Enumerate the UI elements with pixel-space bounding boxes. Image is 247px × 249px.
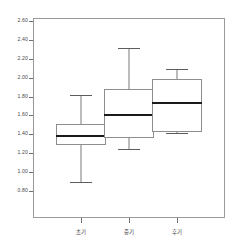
x-axis-label-1: 초기 xyxy=(76,228,86,236)
y-tick-mark xyxy=(29,115,33,116)
y-axis: 2.602.402.202.001.801.601.401.201.000.80 xyxy=(0,0,33,249)
lower-whisker xyxy=(81,145,82,182)
upper-whisker xyxy=(81,95,82,124)
y-tick-label: 1.80 xyxy=(18,93,29,99)
iqr-box xyxy=(152,79,202,132)
y-tick-mark xyxy=(29,21,33,22)
y-tick-mark xyxy=(29,191,33,192)
lower-whisker xyxy=(129,138,130,148)
y-tick-label: 2.60 xyxy=(18,17,29,23)
x-axis-label-3: 후기 xyxy=(172,228,182,236)
y-tick-mark xyxy=(29,134,33,135)
y-tick-mark xyxy=(29,59,33,60)
x-axis-tick xyxy=(177,218,178,223)
y-tick-label: 2.00 xyxy=(18,74,29,80)
median-line xyxy=(152,102,202,104)
y-tick-label: 2.20 xyxy=(18,55,29,61)
y-tick-mark xyxy=(29,78,33,79)
y-tick-mark xyxy=(29,97,33,98)
y-tick-mark xyxy=(29,40,33,41)
upper-whisker-cap xyxy=(166,69,188,70)
lower-whisker-cap xyxy=(70,182,92,183)
y-tick-label: 1.00 xyxy=(18,168,29,174)
upper-whisker xyxy=(177,69,178,78)
upper-whisker xyxy=(129,48,130,89)
y-tick-label: 1.40 xyxy=(18,130,29,136)
lower-whisker-cap xyxy=(118,149,140,150)
y-tick-mark xyxy=(29,153,33,154)
median-line xyxy=(104,114,154,116)
x-axis-label-2: 중기 xyxy=(124,228,134,236)
y-tick-label: 1.60 xyxy=(18,111,29,117)
lower-whisker-cap xyxy=(166,133,188,134)
x-axis-tick xyxy=(129,218,130,223)
y-tick-label: 1.20 xyxy=(18,149,29,155)
y-tick-label: 2.40 xyxy=(18,36,29,42)
median-line xyxy=(56,135,106,137)
upper-whisker-cap xyxy=(70,95,92,96)
upper-whisker-cap xyxy=(118,48,140,49)
boxplot-chart: 2.602.402.202.001.801.601.401.201.000.80… xyxy=(0,0,247,249)
y-tick-mark xyxy=(29,172,33,173)
y-tick-label: 0.80 xyxy=(18,187,29,193)
x-axis-tick xyxy=(81,218,82,223)
